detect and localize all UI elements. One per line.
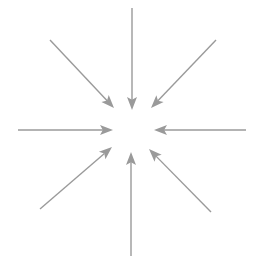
- diagram-canvas-container: [0, 0, 262, 264]
- radial-convergence-diagram: [0, 0, 262, 264]
